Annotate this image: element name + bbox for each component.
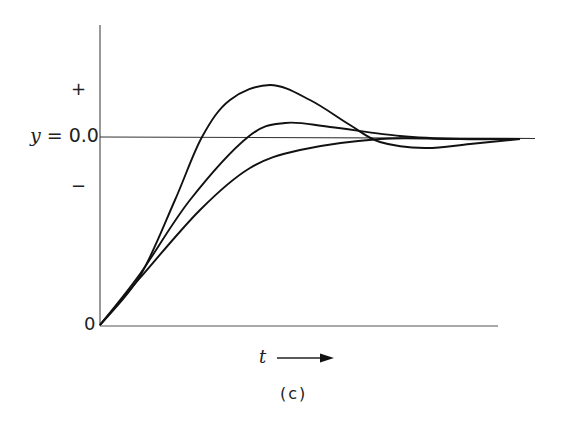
y-reference-label: y = 0.0 [30, 124, 99, 146]
chart-canvas [0, 0, 562, 422]
positive-tick-label: + [71, 78, 86, 99]
curve-overdamped [100, 138, 520, 325]
negative-tick-label: − [71, 175, 86, 196]
figure-caption: (c) [280, 384, 307, 403]
x-axis-label: t [259, 346, 266, 367]
curve-large-overshoot [100, 85, 520, 325]
y-equals-value: = 0.0 [41, 124, 99, 146]
origin-label: 0 [84, 313, 95, 334]
t-arrow-head-icon [320, 354, 334, 363]
y-variable: y [30, 124, 41, 146]
curve-small-overshoot [100, 123, 520, 325]
